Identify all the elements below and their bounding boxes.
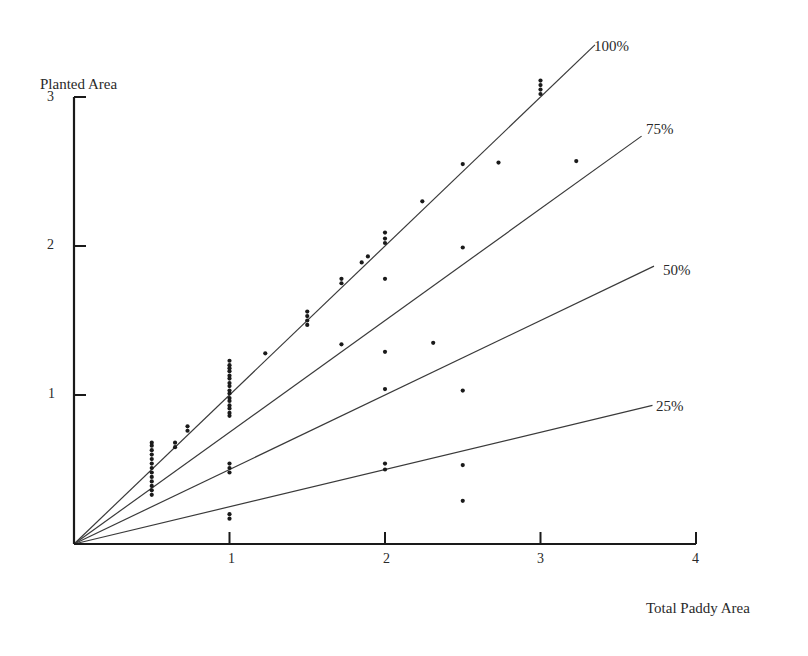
line-label-25: 25% (656, 398, 684, 415)
data-point (305, 323, 309, 327)
data-point (538, 92, 542, 96)
data-point (538, 79, 542, 83)
data-point (383, 387, 387, 391)
data-point (227, 359, 231, 363)
x-axis-label: Total Paddy Area (646, 600, 750, 617)
data-point (461, 245, 465, 249)
data-point (461, 162, 465, 166)
data-point (150, 484, 154, 488)
data-point (538, 87, 542, 91)
data-point (366, 254, 370, 258)
data-point (461, 463, 465, 467)
data-point (383, 350, 387, 354)
line-label-100: 100% (594, 38, 629, 55)
data-point (227, 381, 231, 385)
data-point (150, 448, 154, 452)
x-tick-label-4: 4 (692, 551, 699, 567)
y-tick-label-3: 3 (47, 89, 54, 105)
data-point (305, 318, 309, 322)
data-point (461, 499, 465, 503)
data-point (150, 475, 154, 479)
data-point (538, 83, 542, 87)
y-tick-label-1: 1 (48, 386, 55, 402)
data-point (574, 159, 578, 163)
data-point (150, 466, 154, 470)
data-point (185, 424, 189, 428)
data-point (227, 466, 231, 470)
reference-line (74, 136, 642, 544)
data-point (339, 277, 343, 281)
data-point (420, 199, 424, 203)
data-points (150, 79, 579, 521)
data-point (383, 467, 387, 471)
data-point (185, 429, 189, 433)
scatter-plot (0, 0, 808, 656)
data-point (305, 314, 309, 318)
data-point (431, 341, 435, 345)
x-tick-label-2: 2 (383, 551, 390, 567)
data-point (360, 260, 364, 264)
line-label-75: 75% (646, 121, 674, 138)
reference-line (74, 405, 652, 544)
data-point (305, 309, 309, 313)
data-point (227, 517, 231, 521)
data-point (227, 403, 231, 407)
data-point (263, 351, 267, 355)
data-point (150, 488, 154, 492)
data-point (227, 363, 231, 367)
data-point (227, 396, 231, 400)
data-point (227, 411, 231, 415)
data-point (150, 457, 154, 461)
line-label-50: 50% (663, 262, 691, 279)
data-point (383, 461, 387, 465)
data-point (227, 461, 231, 465)
data-point (383, 277, 387, 281)
data-point (339, 281, 343, 285)
reference-line (74, 266, 654, 544)
data-point (227, 512, 231, 516)
data-point (227, 388, 231, 392)
x-tick-label-3: 3 (537, 551, 544, 567)
data-point (150, 453, 154, 457)
data-point (496, 160, 500, 164)
data-point (339, 342, 343, 346)
y-tick-label-2: 2 (47, 237, 54, 253)
data-point (383, 236, 387, 240)
data-point (173, 441, 177, 445)
data-point (383, 241, 387, 245)
data-point (150, 461, 154, 465)
data-point (173, 445, 177, 449)
data-point (150, 470, 154, 474)
data-point (150, 441, 154, 445)
x-tick-label-1: 1 (228, 551, 235, 567)
data-point (227, 374, 231, 378)
data-point (150, 493, 154, 497)
reference-lines (74, 45, 654, 544)
data-point (383, 230, 387, 234)
data-point (227, 470, 231, 474)
data-point (461, 388, 465, 392)
data-point (150, 479, 154, 483)
